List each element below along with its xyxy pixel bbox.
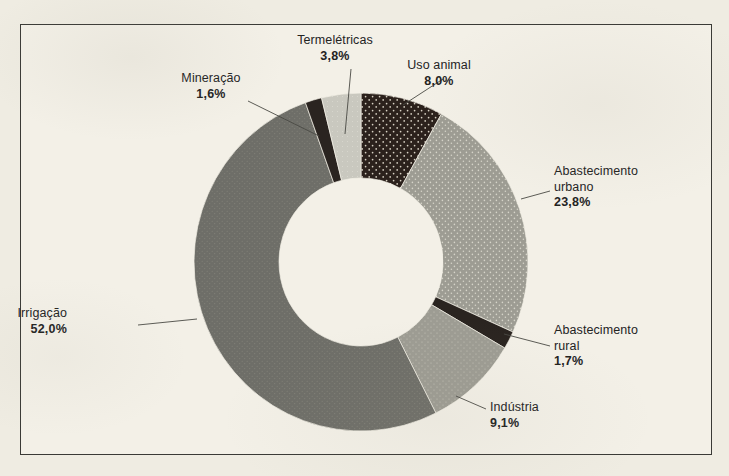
slice-label-value: 1,6% [181, 87, 240, 103]
slice-label: Indústria9,1% [490, 400, 539, 431]
leader-line [521, 191, 550, 199]
slice-label-name: rural [554, 339, 638, 355]
donut-slice-layer [194, 93, 528, 431]
slice-label: Abastecimentourbano23,8% [554, 164, 638, 211]
slice-label-name: Irrigação [17, 306, 67, 322]
slice-label-name: Abastecimento [554, 164, 638, 180]
slice-label-name: Indústria [490, 400, 539, 416]
slice-label-value: 23,8% [554, 195, 638, 211]
slice-label: Abastecimentorural1,7% [554, 323, 638, 370]
figure-frame: Uso animal8,0%Abastecimentourbano23,8%Ab… [20, 24, 712, 455]
leader-line [504, 334, 550, 346]
slice-label-value: 3,8% [297, 49, 373, 65]
leader-line [456, 396, 486, 409]
slice-label-name: Abastecimento [554, 323, 638, 339]
slice-label-value: 52,0% [17, 322, 67, 338]
slice-label-value: 8,0% [407, 74, 471, 90]
slice-label-name: Mineração [181, 71, 240, 87]
slice-label: Irrigação52,0% [17, 306, 67, 337]
donut-chart [21, 25, 711, 454]
slice-label-value: 9,1% [490, 416, 539, 432]
slice-label: Termelétricas3,8% [297, 33, 373, 64]
slice-label-value: 1,7% [554, 354, 638, 370]
slice-label-name: urbano [554, 180, 638, 196]
slice-label-name: Termelétricas [297, 33, 373, 49]
slice-label: Mineração1,6% [181, 71, 240, 102]
slice-label: Uso animal8,0% [407, 58, 471, 89]
slice-label-name: Uso animal [407, 58, 471, 74]
leader-line [138, 319, 197, 325]
donut-chart-svg [21, 25, 713, 456]
